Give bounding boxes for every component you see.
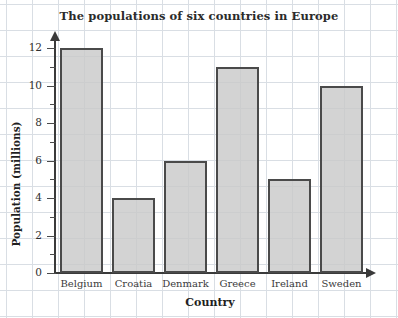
y-axis-tick-label: 8 [2,117,42,128]
y-axis-tick-label: 6 [2,155,42,166]
category-label-sweden: Sweden [307,278,377,289]
y-axis-tick-major [47,236,56,237]
y-axis-title: Population (millions) [10,104,22,264]
plot-area: 024681012 BelgiumCroatiaDenmarkGreeceIre… [0,0,398,318]
x-axis-title: Country [54,296,366,309]
bar-greece [216,67,259,273]
bar-denmark [164,161,207,274]
y-axis-tick-minor [50,217,56,218]
y-axis-tick-minor [50,179,56,180]
y-axis-tick-label: 0 [2,267,42,278]
y-axis-tick-label: 12 [2,42,42,53]
y-axis-arrow-icon [50,31,60,41]
bar-croatia [112,198,155,273]
y-axis-tick-label: 2 [2,230,42,241]
bar-ireland [268,179,311,273]
y-axis-tick-minor [50,104,56,105]
y-axis-tick-major [47,123,56,124]
y-axis-tick-minor [50,142,56,143]
y-axis-tick-major [47,161,56,162]
y-axis-line [54,40,56,274]
bar-sweden [320,86,363,274]
y-axis-tick-minor [50,254,56,255]
bar-belgium [60,48,103,273]
y-axis-tick-major [47,86,56,87]
y-axis-tick-label: 4 [2,192,42,203]
y-axis-tick-label: 10 [2,80,42,91]
y-axis-tick-minor [50,67,56,68]
y-axis-tick-major [47,48,56,49]
chart-canvas: The populations of six countries in Euro… [0,0,398,318]
x-axis-arrow-icon [366,268,376,278]
y-axis-tick-major [47,273,56,274]
y-axis-tick-major [47,198,56,199]
